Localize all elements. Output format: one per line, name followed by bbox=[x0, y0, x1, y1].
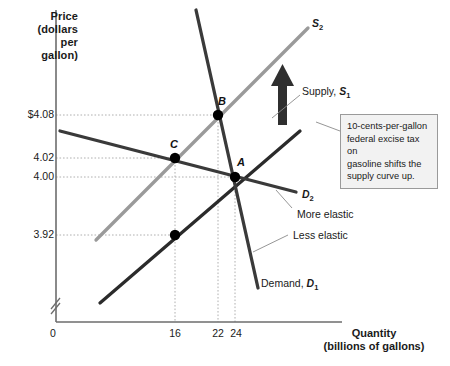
point-label-c: C bbox=[170, 138, 178, 150]
curve-label-demand-d1-text: Demand, bbox=[261, 277, 304, 289]
data-point-b bbox=[213, 110, 223, 120]
curve-label-supply-s1: Supply, S1 bbox=[302, 85, 350, 100]
y-tick-label-408: $4.08 bbox=[0, 108, 54, 120]
curve-label-d2-subscript: 2 bbox=[310, 194, 314, 203]
curve-label-d2: D2 bbox=[302, 188, 314, 203]
y-tick-label-392: 3.92 bbox=[0, 228, 54, 240]
supply-demand-chart: Price (dollars per gallon) Quantity (bil… bbox=[0, 0, 450, 366]
tax-callout-line-1: 10-cents-per-gallon bbox=[347, 120, 432, 133]
data-point-c bbox=[170, 153, 180, 163]
annotation-more-elastic: More elastic bbox=[297, 208, 354, 220]
tax-callout-line-4: supply curve up. bbox=[347, 170, 432, 183]
curve-label-supply-s1-subscript: 1 bbox=[346, 91, 350, 100]
tax-callout-line-2: federal excise tax on bbox=[347, 133, 432, 158]
x-axis-title: Quantity (billions of gallons) bbox=[300, 327, 448, 353]
tax-callout-line-3: gasoline shifts the bbox=[347, 158, 432, 171]
data-point-a bbox=[230, 172, 240, 182]
x-axis-title-line-2: (billions of gallons) bbox=[300, 340, 448, 353]
annotation-less-elastic: Less elastic bbox=[293, 229, 348, 241]
leader-more-elastic bbox=[276, 190, 292, 208]
y-tick-label-400: 4.00 bbox=[0, 170, 54, 182]
curve-label-s2: S2 bbox=[312, 17, 323, 32]
y-axis-title-line-1: Price bbox=[4, 10, 78, 23]
curve-label-supply-s1-text: Supply, bbox=[302, 85, 336, 97]
curve-d1 bbox=[196, 10, 258, 288]
gridlines bbox=[56, 115, 237, 322]
y-axis-title-line-4: gallon) bbox=[4, 49, 78, 62]
x-axis-origin-label: 0 bbox=[38, 327, 68, 339]
y-axis-title: Price (dollars per gallon) bbox=[4, 10, 78, 62]
data-point-s1-16 bbox=[170, 230, 180, 240]
point-label-b: B bbox=[218, 95, 226, 107]
curve-label-s2-symbol: S bbox=[312, 17, 319, 29]
curve-label-demand-d1-subscript: 1 bbox=[314, 283, 318, 292]
x-axis-title-line-1: Quantity bbox=[300, 327, 448, 340]
x-tick-label-16: 16 bbox=[160, 327, 190, 339]
tax-callout-box: 10-cents-per-gallon federal excise tax o… bbox=[340, 114, 438, 189]
point-label-a: A bbox=[237, 156, 245, 168]
leader-less-elastic bbox=[253, 235, 288, 252]
y-tick-label-402: 4.02 bbox=[0, 151, 54, 163]
y-axis-title-line-2: (dollars bbox=[4, 23, 78, 36]
curve-label-demand-d1-symbol: D bbox=[307, 277, 315, 289]
curve-s2 bbox=[96, 28, 308, 240]
curve-label-demand-d1: Demand, D1 bbox=[261, 277, 318, 292]
x-tick-label-24: 24 bbox=[221, 327, 251, 339]
curve-label-d2-symbol: D bbox=[302, 188, 310, 200]
curve-label-s2-subscript: 2 bbox=[319, 23, 323, 32]
y-axis-title-line-3: per bbox=[4, 36, 78, 49]
leader-callout bbox=[316, 122, 340, 131]
